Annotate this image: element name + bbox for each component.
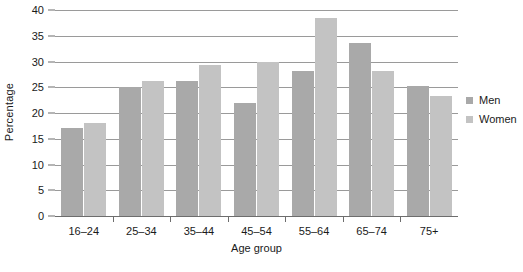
- legend-item-women[interactable]: Women: [466, 111, 517, 127]
- bar-women-16-24: [84, 123, 106, 216]
- bar-women-55-64: [315, 18, 337, 216]
- y-tick-mark: [48, 190, 55, 191]
- x-tick-label: 25–34: [126, 225, 157, 237]
- y-axis-title-label: Percentage: [3, 83, 15, 141]
- y-tick-mark: [48, 10, 55, 11]
- legend-item-men[interactable]: Men: [466, 92, 517, 108]
- bar-women-75+: [430, 96, 452, 216]
- bar-women-45-54: [257, 62, 279, 217]
- bar-men-25-34: [119, 87, 141, 216]
- bar-men-55-64: [292, 71, 314, 216]
- bar-men-16-24: [61, 128, 83, 216]
- y-tick-mark: [48, 164, 55, 165]
- y-tick-label: 15: [18, 133, 44, 145]
- bar-women-65-74: [372, 71, 394, 216]
- y-tick-label: 30: [18, 56, 44, 68]
- bar-men-65-74: [349, 43, 371, 216]
- x-tick-mark: [285, 217, 286, 222]
- legend-swatch-icon: [466, 116, 473, 123]
- y-tick-mark: [48, 216, 55, 217]
- legend-swatch-icon: [466, 97, 473, 104]
- y-tick-label: 0: [18, 210, 44, 222]
- gridline: [55, 10, 458, 11]
- gridline: [55, 36, 458, 37]
- y-tick-label: 40: [18, 4, 44, 16]
- x-tick-mark: [400, 217, 401, 222]
- bar-men-75+: [407, 86, 429, 216]
- x-tick-label: 45–54: [241, 225, 272, 237]
- legend-label: Men: [479, 94, 500, 106]
- x-tick-mark: [343, 217, 344, 222]
- y-tick-mark: [48, 87, 55, 88]
- x-tick-mark: [113, 217, 114, 222]
- y-tick-label: 35: [18, 30, 44, 42]
- plot-area: [55, 10, 458, 216]
- legend: MenWomen: [466, 92, 517, 130]
- x-tick-mark: [228, 217, 229, 222]
- y-tick-label: 5: [18, 184, 44, 196]
- y-axis-title: Percentage: [0, 0, 18, 224]
- x-tick-mark: [170, 217, 171, 222]
- y-tick-label: 20: [18, 107, 44, 119]
- x-tick-label: 35–44: [184, 225, 215, 237]
- y-tick-mark: [48, 138, 55, 139]
- bar-men-45-54: [234, 103, 256, 216]
- bar-women-35-44: [199, 65, 221, 216]
- y-tick-mark: [48, 113, 55, 114]
- x-axis-line: [55, 216, 458, 217]
- x-tick-label: 55–64: [299, 225, 330, 237]
- x-tick-label: 65–74: [356, 225, 387, 237]
- y-tick-label: 10: [18, 159, 44, 171]
- x-tick-label: 16–24: [68, 225, 99, 237]
- bar-women-25-34: [142, 81, 164, 216]
- bar-men-35-44: [176, 81, 198, 216]
- legend-label: Women: [479, 113, 517, 125]
- bar-chart: Percentage 0510152025303540 16–2425–3435…: [0, 0, 523, 272]
- x-tick-label: 75+: [420, 225, 439, 237]
- y-tick-mark: [48, 35, 55, 36]
- y-tick-label: 25: [18, 81, 44, 93]
- x-axis-title: Age group: [55, 242, 458, 254]
- y-tick-mark: [48, 61, 55, 62]
